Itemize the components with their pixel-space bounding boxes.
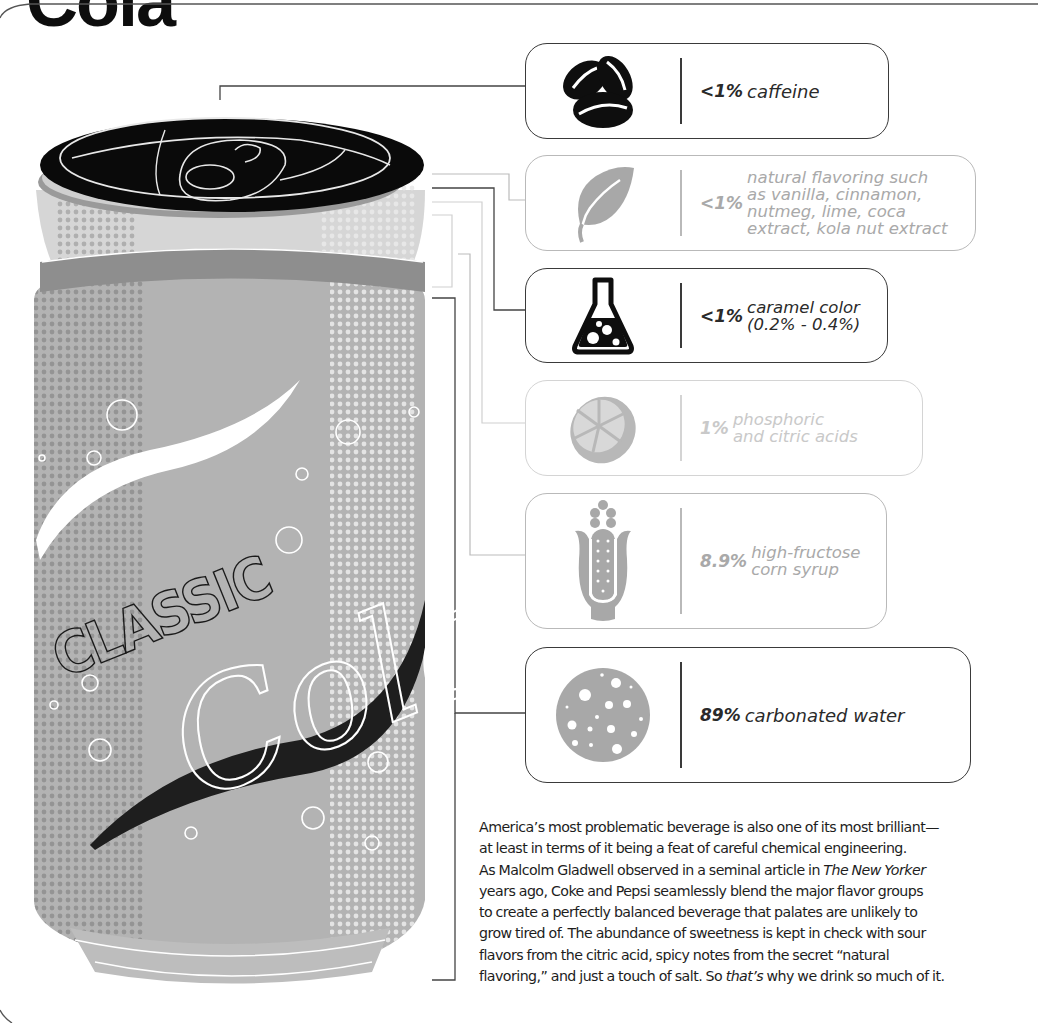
body-line: at least in terms of it being a feat of … (479, 838, 1038, 859)
ingredient-card-caramel-color: <1% caramel color (0.2% - 0.4%) (525, 268, 888, 363)
ingredient-description: natural flavoring such as vanilla, cinna… (747, 169, 947, 237)
coffee-beans-icon (526, 44, 680, 138)
ingredient-description: carbonated water (745, 707, 905, 724)
ingredient-percent: 1% (700, 418, 729, 438)
body-text-run: why we drink so much of it. (763, 968, 944, 984)
card-divider (680, 395, 682, 461)
ingredient-card-natural-flavoring: <1% natural flavoring such as vanilla, c… (525, 155, 976, 251)
body-line: flavors from the citric acid, spicy note… (479, 945, 1038, 966)
ingredient-description: high-fructose corn syrup (751, 544, 860, 578)
flask-icon (526, 269, 680, 362)
card-divider (680, 508, 682, 614)
card-divider (680, 58, 682, 124)
can-lid (38, 118, 424, 218)
body-line: flavoring,” and just a touch of salt. So… (479, 966, 1038, 987)
body-line: As Malcolm Gladwell observed in a semina… (479, 860, 1038, 881)
card-divider (680, 170, 682, 236)
corn-icon (526, 494, 680, 628)
ingredient-card-carbonated-water: 89% carbonated water (525, 647, 971, 783)
ingredient-description: phosphoric and citric acids (733, 411, 858, 445)
body-text-run: As Malcolm Gladwell observed in a semina… (479, 862, 823, 878)
ingredient-percent: <1% (700, 306, 743, 326)
can-body: CLASSIC Cola (34, 180, 528, 984)
frame-line (0, 4, 1038, 18)
ingredient-percent: 89% (700, 705, 741, 725)
ingredient-percent: <1% (700, 81, 743, 101)
ingredient-card-corn-syrup: 8.9% high-fructose corn syrup (525, 493, 887, 629)
body-text-run: flavoring,” and just a touch of salt. So (479, 968, 726, 984)
card-divider (680, 283, 682, 348)
body-paragraph: America’s most problematic beverage is a… (479, 817, 1038, 987)
body-line: America’s most problematic beverage is a… (479, 817, 1038, 838)
ingredient-card-caffeine: <1% caffeine (525, 43, 889, 139)
ingredient-label: 1% phosphoric and citric acids (700, 381, 858, 475)
ingredient-card-acids: 1% phosphoric and citric acids (525, 380, 923, 476)
ingredient-label: 8.9% high-fructose corn syrup (700, 494, 861, 628)
ingredient-description: caffeine (747, 83, 819, 100)
body-line: grow tired of. The abundance of sweetnes… (479, 923, 1038, 944)
card-divider (680, 662, 682, 768)
bubbles-icon (526, 648, 680, 782)
frame-line-bottom (0, 1010, 12, 1023)
body-line: to create a perfectly balanced beverage … (479, 902, 1038, 923)
ingredient-percent: <1% (700, 193, 743, 213)
ingredient-label: <1% caffeine (700, 44, 820, 138)
ingredient-percent: 8.9% (700, 551, 747, 571)
publication-title: The New Yorker (823, 862, 925, 878)
ingredient-label: 89% carbonated water (700, 648, 904, 782)
emphasis-text: that’s (726, 968, 763, 984)
ingredient-label: <1% caramel color (0.2% - 0.4%) (700, 269, 860, 362)
body-line: years ago, Coke and Pepsi seamlessly ble… (479, 881, 1038, 902)
ingredient-label: <1% natural flavoring such as vanilla, c… (700, 156, 947, 250)
leaf-icon (526, 156, 680, 250)
lemon-slice-icon (526, 381, 680, 475)
ingredient-description: caramel color (0.2% - 0.4%) (747, 299, 860, 333)
